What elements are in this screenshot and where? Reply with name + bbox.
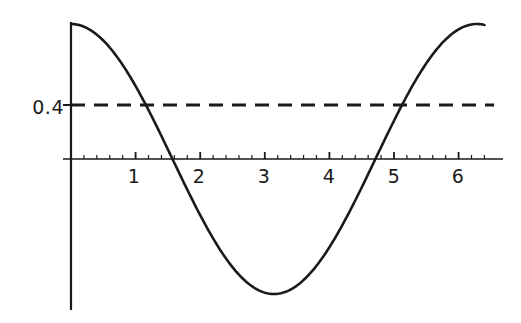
x-tick-label-5: 5 [379, 165, 409, 187]
plot-canvas: 0.4 1 2 3 4 5 6 [0, 0, 521, 323]
y-tick-label-0-4: 0.4 [14, 96, 64, 118]
x-tick-label-1: 1 [119, 165, 149, 187]
chart-svg [0, 0, 521, 323]
x-axis-major-ticks [136, 152, 459, 159]
x-tick-label-6: 6 [443, 165, 473, 187]
x-tick-label-4: 4 [314, 165, 344, 187]
x-tick-label-2: 2 [184, 165, 214, 187]
x-tick-label-3: 3 [249, 165, 279, 187]
